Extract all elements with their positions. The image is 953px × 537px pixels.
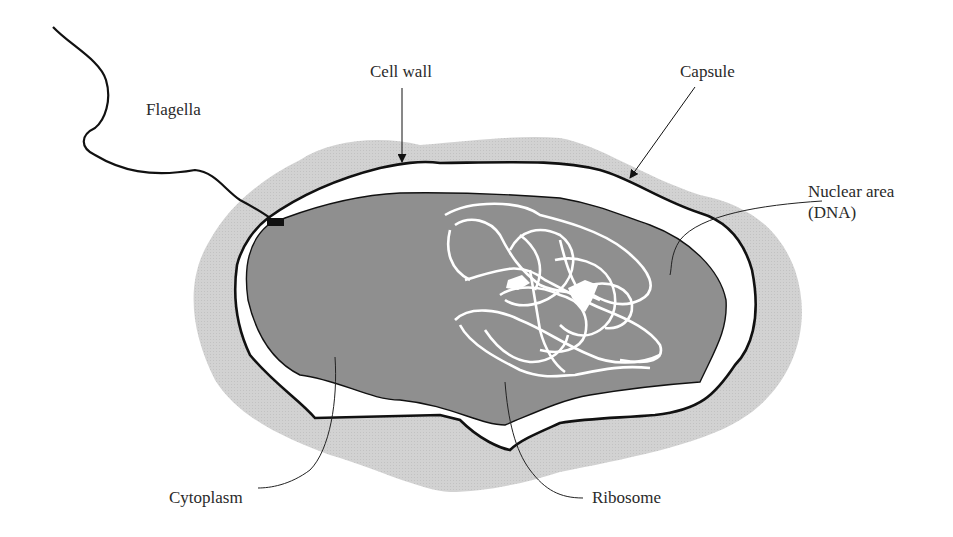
bacterial-cell-diagram: Flagella Cell wall Capsule Nuclear area … [0, 0, 953, 537]
dna-label: (DNA) [808, 203, 856, 222]
cell-wall-label: Cell wall [370, 62, 432, 81]
cytoplasm-label: Cytoplasm [169, 488, 243, 507]
capsule-label: Capsule [680, 62, 735, 81]
flagellum-basal-body [267, 218, 284, 226]
flagella-label: Flagella [146, 100, 201, 119]
nuclear-area-label: Nuclear area [808, 182, 895, 201]
capsule-arrow [630, 87, 695, 178]
ribosome-label: Ribosome [592, 488, 661, 507]
flagellum [53, 27, 270, 218]
